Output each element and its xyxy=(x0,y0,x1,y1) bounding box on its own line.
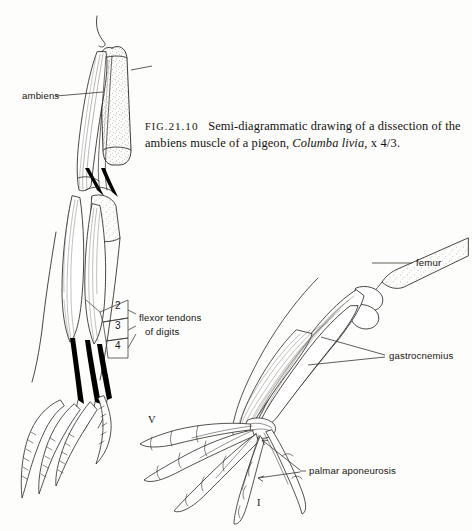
tendon-number-3: 3 xyxy=(115,320,121,331)
digit-numeral-one: I xyxy=(257,497,261,508)
label-palmar-aponeurosis: palmar aponeurosis xyxy=(309,465,396,476)
digit-numeral-five: V xyxy=(148,414,156,425)
femur xyxy=(364,238,468,299)
caption-magnification: , x 4/3. xyxy=(364,136,400,150)
tendon-number-4: 4 xyxy=(115,340,121,351)
fascia-strand xyxy=(96,16,105,47)
figure-caption: Fig.21.10 Semi-diagrammatic drawing of a… xyxy=(145,118,463,152)
label-flexor-tendons-line1: flexor tendons xyxy=(139,312,201,323)
right-foot-toes xyxy=(140,423,306,524)
figure-number-prefix: Fig. xyxy=(145,121,168,132)
lower-leg-muscle-bellies xyxy=(62,196,106,344)
leader-palmar-a xyxy=(262,440,300,470)
left-foot-claws xyxy=(21,396,111,498)
label-gastrocnemius: gastrocnemius xyxy=(389,350,453,361)
gastrocnemius-muscle xyxy=(233,278,365,437)
label-femur: femur xyxy=(416,257,441,268)
figure-number: 21.10 xyxy=(168,120,198,132)
label-flexor-tendons-line2: of digits xyxy=(145,326,179,337)
caption-species-name: Columba livia xyxy=(292,136,364,150)
figure-plate: Fig.21.10 Semi-diagrammatic drawing of a… xyxy=(0,0,472,531)
anatomical-illustration xyxy=(0,0,472,531)
label-ambiens: ambiens xyxy=(22,90,59,101)
tendon-number-2: 2 xyxy=(115,300,121,311)
leader-bone-tick xyxy=(131,66,152,70)
